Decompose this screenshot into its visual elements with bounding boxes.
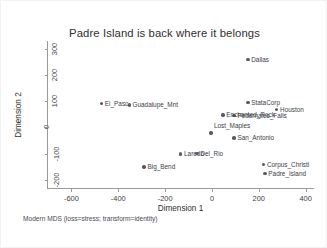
scatter-marker-icon: [232, 136, 235, 139]
scatter-point-label: Padre_Island: [268, 170, 306, 177]
scatter-point-label: Big_Bend: [147, 163, 175, 170]
scatter-point-label: Dallas: [251, 56, 269, 63]
scatter-marker-icon: [262, 163, 265, 166]
x-axis-tick: [118, 189, 119, 192]
scatter-point-label: Lost_Maples: [214, 122, 250, 129]
scatter-marker-icon: [263, 172, 266, 175]
scatter-marker-icon: [100, 102, 103, 105]
scatter-point-label: San_Antonio: [237, 134, 274, 141]
x-axis-title: Dimension 1: [47, 204, 314, 213]
y-axis-tick-label: -100: [52, 154, 61, 169]
scatter-point-label: Del_Rio: [200, 150, 223, 157]
scatter-marker-icon: [179, 152, 182, 155]
y-axis-tick-label: 200: [50, 75, 59, 87]
scatter-point-label: Enchanted_Rock: [226, 111, 275, 118]
y-axis-tick: [45, 75, 48, 76]
x-axis-tick: [212, 189, 213, 192]
scatter-point-label: El_Paso: [105, 100, 129, 107]
y-axis-tick: [45, 180, 48, 181]
scatter-marker-icon: [246, 58, 249, 61]
chart-footnote: Modern MDS (loss=stress; transform=ident…: [23, 215, 157, 222]
scatter-point-label: Guadalupe_Mnt: [133, 101, 178, 108]
scatter-marker-icon: [128, 103, 131, 106]
plot-area: -600-400-2000200400-200-1000100200300Dal…: [47, 41, 314, 189]
scatter-marker-icon: [142, 165, 145, 168]
screenshot-root: Padre Island is back where it belongs -6…: [0, 0, 327, 248]
scatter-marker-icon: [221, 113, 224, 116]
x-axis-tick-label: -200: [158, 194, 173, 203]
y-axis-tick-label: 300: [50, 49, 59, 61]
y-axis-title: Dimension 2: [14, 92, 23, 138]
x-axis-tick: [259, 189, 260, 192]
x-axis-tick-label: -600: [64, 194, 79, 203]
x-axis-tick-label: 0: [210, 194, 214, 203]
y-axis-tick-label: -200: [52, 180, 61, 195]
x-axis-tick-label: 200: [253, 194, 265, 203]
scatter-marker-icon: [209, 131, 212, 134]
y-axis-tick: [45, 154, 48, 155]
y-axis-tick: [45, 101, 48, 102]
graph-canvas: Padre Island is back where it belongs -6…: [0, 0, 327, 248]
x-axis-tick-label: -400: [111, 194, 126, 203]
scatter-marker-icon: [275, 108, 278, 111]
scatter-point-label: Corpus_Christi: [267, 161, 309, 168]
x-axis-tick: [306, 189, 307, 192]
scatter-point-label: StataCorp: [251, 99, 280, 106]
y-axis-tick: [45, 49, 48, 50]
y-axis-tick-label: 100: [50, 101, 59, 113]
x-axis-tick: [165, 189, 166, 192]
x-axis-tick: [71, 189, 72, 192]
chart-title: Padre Island is back where it belongs: [1, 27, 327, 39]
y-axis-tick-label: 0: [42, 127, 51, 131]
scatter-marker-icon: [246, 101, 249, 104]
x-axis-tick-label: 400: [299, 194, 311, 203]
